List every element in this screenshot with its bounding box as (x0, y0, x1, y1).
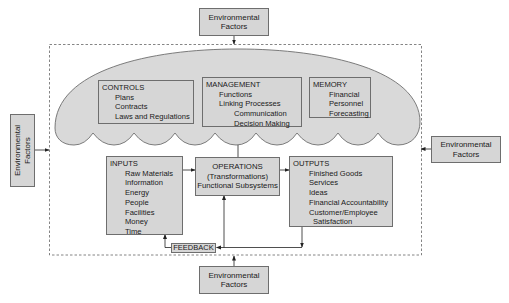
outputs-item: Financial Accountability (293, 198, 389, 208)
outputs-box: OUTPUTS Finished Goods Services Ideas Fi… (289, 156, 393, 227)
inputs-item: Information (110, 178, 179, 188)
env-left-line1: Environmental (13, 125, 23, 176)
management-item: Functions (206, 90, 298, 100)
controls-title: CONTROLS (102, 83, 190, 93)
operations-subsystems: Functional Subsystems (197, 181, 278, 191)
controls-item: Laws and Regulations (102, 112, 190, 122)
inputs-item: Raw Materials (110, 169, 179, 179)
env-bottom-line2: Factors (221, 280, 248, 290)
env-top-line2: Factors (221, 22, 248, 32)
env-bottom-line1: Environmental (208, 271, 259, 281)
inputs-item: Facilities (110, 208, 179, 218)
env-factors-top: Environmental Factors (199, 8, 269, 36)
operations-title: OPERATIONS (212, 162, 263, 172)
env-top-line1: Environmental (208, 13, 259, 23)
controls-item: Plans (102, 93, 190, 103)
outputs-item: Customer/Employee (293, 208, 389, 218)
env-right-line1: Environmental (440, 140, 491, 150)
operations-subtitle: (Transformations) (207, 172, 268, 182)
memory-item: Personnel (313, 99, 367, 109)
memory-item: Forecasting (313, 109, 367, 119)
outputs-item-continuation: Satisfaction (293, 217, 389, 227)
operations-box: OPERATIONS (Transformations) Functional … (195, 157, 280, 196)
memory-title: MEMORY (313, 80, 367, 90)
env-right-line2: Factors (453, 150, 480, 160)
controls-box: CONTROLS Plans Contracts Laws and Regula… (98, 80, 194, 124)
outputs-title: OUTPUTS (293, 159, 389, 169)
env-factors-bottom: Environmental Factors (199, 266, 269, 294)
memory-box: MEMORY Financial Personnel Forecasting (309, 77, 371, 118)
management-box: MANAGEMENT Functions Linking Processes C… (202, 77, 302, 127)
memory-item: Financial (313, 90, 367, 100)
outputs-item: Finished Goods (293, 169, 389, 179)
management-subitem: Communication (206, 109, 298, 119)
inputs-title: INPUTS (110, 159, 179, 169)
inputs-item: People (110, 198, 179, 208)
feedback-label: FEEDBACK (173, 244, 213, 252)
inputs-item: Time (110, 227, 179, 237)
outputs-item: Services (293, 178, 389, 188)
env-factors-left: Environmental Factors (10, 114, 35, 187)
outputs-item: Ideas (293, 188, 389, 198)
controls-item: Contracts (102, 102, 190, 112)
env-factors-right: Environmental Factors (431, 136, 501, 163)
inputs-item: Money (110, 217, 179, 227)
inputs-item: Energy (110, 188, 179, 198)
management-item: Linking Processes (206, 99, 298, 109)
inputs-box: INPUTS Raw Materials Information Energy … (106, 156, 183, 235)
env-left-line2: Factors (23, 137, 33, 164)
feedback-box: FEEDBACK (171, 243, 216, 253)
management-subitem: Decision Making (206, 119, 298, 129)
management-title: MANAGEMENT (206, 80, 298, 90)
